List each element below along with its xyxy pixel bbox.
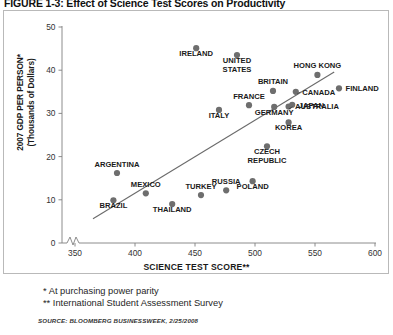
data-point-label: FRANCE bbox=[233, 92, 265, 101]
y-axis-title-line1: 2007 GDP PER PERSON* bbox=[15, 54, 25, 151]
x-axis-tick-label: 350 bbox=[68, 248, 82, 258]
y-axis-tick-label: 0 bbox=[51, 238, 56, 248]
chart-area: 01020304050350400450500550600IRELANDUNIT… bbox=[0, 0, 393, 275]
data-point-label: ITALY bbox=[209, 111, 230, 120]
data-point[interactable] bbox=[143, 190, 149, 196]
data-point-label: AUSTRALIA bbox=[295, 102, 339, 111]
x-axis-tick-label: 400 bbox=[128, 248, 142, 258]
x-axis-break-symbol bbox=[67, 237, 79, 245]
data-point[interactable] bbox=[336, 85, 342, 91]
x-axis-tick-label: 500 bbox=[248, 248, 262, 258]
data-point-label: MEXICO bbox=[131, 180, 161, 189]
y-axis-title: 2007 GDP PER PERSON* (Thousands of Dolla… bbox=[15, 18, 36, 188]
x-axis-tick-label: 450 bbox=[188, 248, 202, 258]
y-axis-title-line2: (Thousands of Dollars) bbox=[25, 58, 35, 146]
footnote-purchasing-power: * At purchasing power parity bbox=[43, 286, 223, 298]
y-axis-tick-label: 30 bbox=[46, 108, 56, 118]
footnote-assessment-survey: ** International Student Assessment Surv… bbox=[43, 298, 223, 310]
x-axis-title: SCIENCE TEST SCORE** bbox=[0, 262, 393, 272]
data-point[interactable] bbox=[293, 89, 299, 95]
footnotes: * At purchasing power parity ** Internat… bbox=[43, 286, 223, 310]
data-point-label: UNITEDSTATES bbox=[223, 56, 252, 74]
data-point-label: BRAZIL bbox=[99, 201, 127, 210]
data-point-label: KOREA bbox=[275, 123, 303, 132]
data-point-label: HONG KONG bbox=[294, 61, 342, 70]
data-point-label: BRITAIN bbox=[258, 77, 288, 86]
y-axis-tick-label: 10 bbox=[46, 195, 56, 205]
data-point[interactable] bbox=[314, 72, 320, 78]
data-point-label: ARGENTINA bbox=[94, 160, 140, 169]
data-point[interactable] bbox=[198, 192, 204, 198]
data-point-label: FINLAND bbox=[346, 84, 380, 93]
x-axis-tick-label: 550 bbox=[308, 248, 322, 258]
scatter-plot-svg: 01020304050350400450500550600IRELANDUNIT… bbox=[0, 0, 393, 275]
y-axis-tick-label: 50 bbox=[46, 22, 56, 32]
data-point-label: IRELAND bbox=[179, 49, 213, 58]
data-point[interactable] bbox=[246, 102, 252, 108]
data-point[interactable] bbox=[114, 170, 120, 176]
data-point-label: CANADA bbox=[302, 88, 335, 97]
data-point-label: GERMANY bbox=[255, 108, 294, 117]
data-point[interactable] bbox=[223, 187, 229, 193]
y-axis-tick-label: 40 bbox=[46, 65, 56, 75]
data-point-label: CZECHREPUBLIC bbox=[248, 147, 287, 165]
source-attribution: SOURCE: BLOOMBERG BUSINESSWEEK, 2/25/200… bbox=[38, 317, 198, 324]
data-point-label: TURKEY bbox=[185, 182, 216, 191]
data-point-label: THAILAND bbox=[153, 205, 192, 214]
y-axis-tick-label: 20 bbox=[46, 152, 56, 162]
data-point[interactable] bbox=[270, 88, 276, 94]
x-axis-tick-label: 600 bbox=[368, 248, 382, 258]
data-point-label: POLAND bbox=[237, 182, 270, 191]
